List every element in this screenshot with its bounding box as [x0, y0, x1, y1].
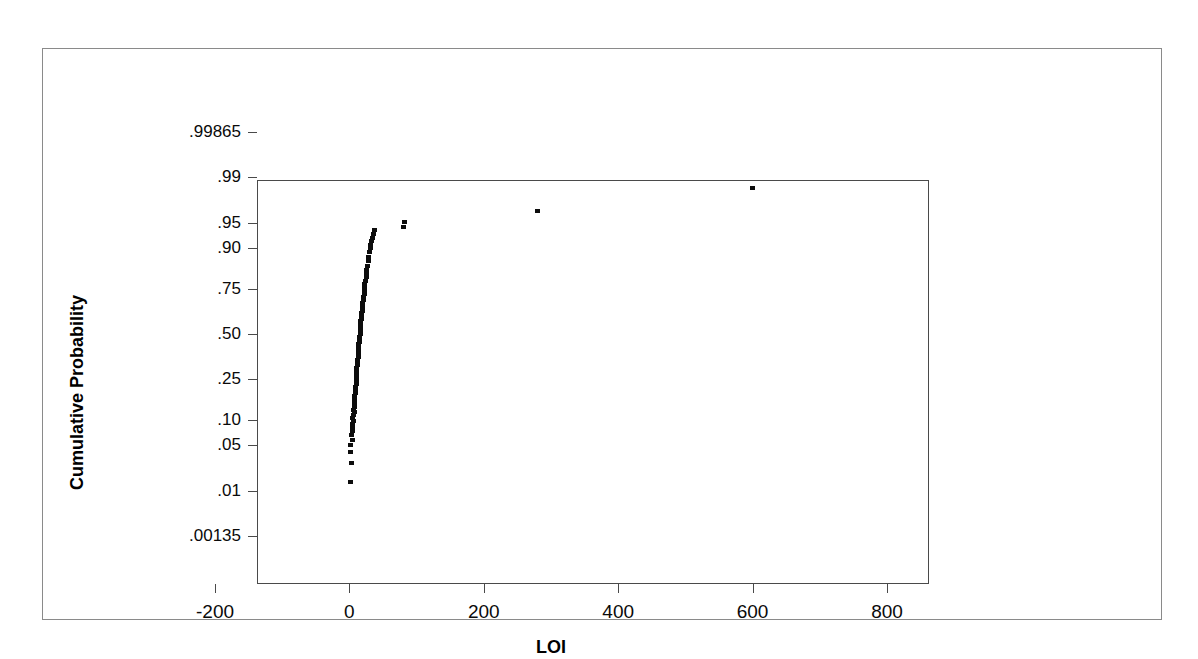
y-axis-tick	[248, 289, 257, 290]
y-axis-tick-label: .50	[121, 325, 241, 342]
x-axis-tick-label: 0	[289, 602, 409, 621]
data-point	[348, 443, 353, 447]
x-axis-tick	[349, 584, 350, 593]
y-axis-title: Cumulative Probability	[67, 243, 88, 543]
data-point	[365, 264, 370, 268]
x-axis-tick	[887, 584, 888, 593]
data-point	[368, 246, 373, 250]
data-point	[369, 239, 374, 243]
data-point	[366, 259, 371, 263]
y-axis-tick-label: .01	[121, 482, 241, 499]
y-axis-tick	[248, 132, 257, 133]
data-point	[401, 225, 406, 229]
x-axis-tick-label: 400	[558, 602, 678, 621]
x-axis-tick	[484, 584, 485, 593]
data-point	[366, 255, 371, 259]
figure-outer-border: .00135.01.05.10.25.50.75.90.95.99.99865 …	[42, 48, 1162, 620]
data-point	[372, 228, 377, 232]
y-axis-tick	[248, 248, 257, 249]
y-axis-tick-label: .05	[121, 436, 241, 453]
data-point	[364, 268, 369, 272]
y-axis-tick-label: .00135	[121, 527, 241, 544]
figure-root: .00135.01.05.10.25.50.75.90.95.99.99865 …	[0, 0, 1198, 659]
data-point	[750, 186, 755, 190]
y-axis-tick-label: .99	[121, 168, 241, 185]
data-point	[363, 279, 368, 283]
y-axis-tick	[248, 379, 257, 380]
data-point	[367, 250, 372, 254]
x-axis-tick-label: -200	[155, 602, 275, 621]
y-axis-tick	[248, 491, 257, 492]
y-axis-tick-label: .10	[121, 411, 241, 428]
x-axis-tick-label: 600	[693, 602, 813, 621]
data-point	[535, 209, 540, 213]
x-axis-tick-label: 800	[827, 602, 947, 621]
x-axis-tick	[215, 584, 216, 593]
y-axis-tick	[248, 334, 257, 335]
x-axis-tick	[618, 584, 619, 593]
data-point	[349, 461, 354, 465]
y-axis-tick	[248, 536, 257, 537]
data-point	[348, 450, 353, 454]
y-axis-tick-label: .90	[121, 239, 241, 256]
data-point	[350, 438, 355, 442]
y-axis-tick-label: .75	[121, 280, 241, 297]
y-axis-tick-label: .99865	[121, 123, 241, 140]
y-axis-tick	[248, 445, 257, 446]
data-point	[353, 389, 358, 393]
y-axis-tick	[248, 223, 257, 224]
y-axis-tick-label: .25	[121, 370, 241, 387]
x-axis-title: LOI	[43, 637, 1059, 658]
data-point	[402, 220, 407, 224]
x-axis-tick-label: 200	[424, 602, 544, 621]
y-axis-tick	[248, 420, 257, 421]
x-axis-tick	[753, 584, 754, 593]
data-point	[348, 480, 353, 484]
y-axis-tick-label: .95	[121, 214, 241, 231]
data-point	[349, 433, 354, 437]
data-point	[350, 429, 355, 433]
y-axis-tick	[248, 177, 257, 178]
data-point	[350, 426, 355, 430]
data-point	[370, 236, 375, 240]
data-point	[364, 272, 369, 276]
data-point	[364, 275, 369, 279]
